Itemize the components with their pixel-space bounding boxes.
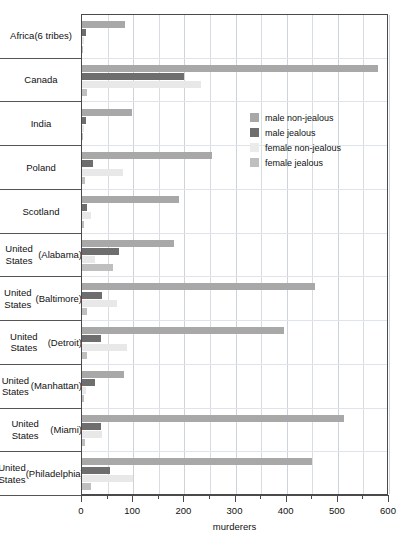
x-axis-title: murderers (81, 521, 388, 532)
category-label-line: (Manhattan) (31, 380, 82, 392)
row-separator (82, 364, 387, 365)
x-tick-600 (388, 495, 389, 502)
x-tick-label: 100 (124, 505, 140, 516)
bar-male-non-jealous (82, 152, 212, 159)
category-label: Poland (0, 145, 82, 189)
bar-female-non-jealous (82, 300, 117, 307)
row-separator (82, 320, 387, 321)
bar-female-non-jealous (82, 37, 84, 44)
bar-female-non-jealous (82, 475, 133, 482)
x-tick-label: 200 (175, 505, 191, 516)
bar-female-jealous (82, 89, 87, 96)
x-tick-50 (107, 495, 108, 499)
bar-male-jealous (82, 248, 119, 255)
row-separator (82, 101, 387, 102)
category-label-line: United States (0, 375, 31, 398)
category-label-line: (Philadelphia) (26, 468, 84, 480)
x-tick-label: 600 (380, 505, 396, 516)
category-label-line: India (31, 118, 52, 130)
bar-female-non-jealous (82, 81, 201, 88)
gridline-350 (261, 15, 262, 494)
category-label-line: United States (0, 287, 36, 310)
category-label-line: United States (0, 331, 48, 354)
bar-male-non-jealous (82, 109, 132, 116)
x-tick-100 (132, 495, 133, 502)
bar-male-non-jealous (82, 327, 284, 334)
row-separator (82, 233, 387, 234)
bar-female-jealous (82, 133, 83, 140)
x-tick-label: 500 (329, 505, 345, 516)
x-tick-450 (311, 495, 312, 499)
bar-female-non-jealous (82, 431, 102, 438)
legend-swatch-icon (250, 113, 259, 122)
row-separator (82, 451, 387, 452)
category-label: United States(Alabama) (0, 233, 82, 277)
bar-female-non-jealous (82, 387, 86, 394)
plot-area (81, 14, 388, 495)
bar-male-non-jealous (82, 240, 174, 247)
bar-male-non-jealous (82, 371, 124, 378)
legend-item: female non-jealous (250, 140, 341, 155)
row-separator (82, 408, 387, 409)
bar-female-jealous (82, 308, 87, 315)
bar-female-non-jealous (82, 125, 84, 132)
x-tick-250 (209, 495, 210, 499)
value-axis-spine (81, 14, 82, 495)
category-label: United States(Detroit) (0, 320, 82, 364)
murderers-bar-chart: Africa(6 tribes)CanadaIndiaPolandScotlan… (0, 0, 405, 544)
x-tick-300 (235, 495, 236, 502)
bar-male-jealous (82, 467, 110, 474)
category-label-line: (Miami) (50, 424, 82, 436)
bar-female-jealous (82, 46, 83, 53)
gridline-400 (287, 15, 288, 494)
category-label-line: United States (0, 462, 26, 485)
category-label-line: Poland (26, 162, 56, 174)
category-label-line: Africa (10, 30, 34, 42)
bar-female-non-jealous (82, 344, 127, 351)
gridline-550 (363, 15, 364, 494)
category-label-line: United States (0, 243, 38, 266)
bar-female-jealous (82, 221, 84, 228)
x-tick-0 (81, 495, 82, 502)
category-label-line: (Alabama) (38, 249, 82, 261)
category-label-line: (Baltimore) (36, 293, 82, 305)
bar-male-jealous (82, 117, 86, 124)
legend-item: male non-jealous (250, 110, 341, 125)
x-tick-label: 400 (278, 505, 294, 516)
x-tick-400 (286, 495, 287, 502)
bar-female-jealous (82, 352, 87, 359)
category-label: United States(Philadelphia) (0, 451, 82, 495)
gridline-450 (312, 15, 313, 494)
x-tick-200 (183, 495, 184, 502)
category-label: India (0, 101, 82, 145)
row-separator (82, 145, 387, 146)
bar-female-non-jealous (82, 169, 123, 176)
legend-swatch-icon (250, 143, 259, 152)
bar-female-non-jealous (82, 212, 91, 219)
bar-male-non-jealous (82, 65, 378, 72)
bar-female-jealous (82, 264, 113, 271)
legend-item-label: female non-jealous (265, 143, 341, 153)
x-tick-350 (260, 495, 261, 499)
bar-male-non-jealous (82, 196, 179, 203)
legend-item-label: male non-jealous (265, 113, 334, 123)
x-tick-label: 300 (227, 505, 243, 516)
gridline-300 (236, 15, 237, 494)
bar-male-jealous (82, 335, 101, 342)
category-label: Canada (0, 58, 82, 102)
x-tick-label: 0 (78, 505, 83, 516)
category-axis-labels: Africa(6 tribes)CanadaIndiaPolandScotlan… (0, 14, 82, 495)
row-separator (82, 58, 387, 59)
category-label: Africa(6 tribes) (0, 14, 82, 58)
legend: male non-jealousmale jealousfemale non-j… (250, 110, 341, 170)
category-label-line: Scotland (23, 206, 60, 218)
gridline-250 (210, 15, 211, 494)
row-separator (82, 276, 387, 277)
bar-male-jealous (82, 29, 86, 36)
category-label: United States(Miami) (0, 408, 82, 452)
category-label-line: (Detroit) (48, 337, 82, 349)
bar-male-non-jealous (82, 21, 125, 28)
category-label-line: United States (0, 418, 50, 441)
bar-male-non-jealous (82, 415, 344, 422)
category-label: United States(Baltimore) (0, 276, 82, 320)
